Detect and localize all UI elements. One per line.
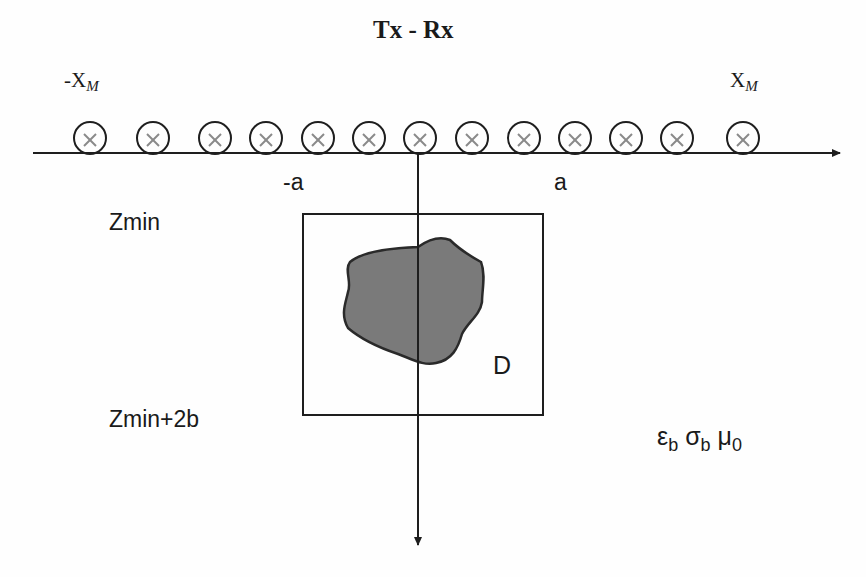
antenna-icon xyxy=(508,122,540,154)
sigma-symbol: σ xyxy=(685,422,700,450)
scatterer-shape xyxy=(344,238,484,363)
pos-xm-base: X xyxy=(730,68,745,92)
mu-sub: 0 xyxy=(732,435,742,455)
antenna-icon xyxy=(302,122,334,154)
neg-a-label: -a xyxy=(283,171,303,194)
epsilon-sub: b xyxy=(668,435,678,455)
antenna-icon xyxy=(137,122,169,154)
mu-symbol: μ xyxy=(718,422,732,450)
antenna-icon xyxy=(559,122,591,154)
medium-parameters-label: εb σb μ0 xyxy=(657,424,742,454)
zmin-2b-label: Zmin+2b xyxy=(109,408,199,431)
antenna-icon xyxy=(199,122,231,154)
antenna-icon xyxy=(610,122,642,154)
neg-xm-sub: M xyxy=(86,78,99,94)
sigma-sub: b xyxy=(701,435,711,455)
epsilon-symbol: ε xyxy=(657,422,668,450)
pos-xm-label: XM xyxy=(730,70,758,94)
antenna-icon xyxy=(456,122,488,154)
domain-d-label: D xyxy=(493,353,511,378)
antenna-array xyxy=(74,122,759,154)
pos-xm-sub: M xyxy=(745,78,758,94)
diagram-title: Tx - Rx xyxy=(373,17,454,42)
zmin-label: Zmin xyxy=(109,211,160,234)
diagram-canvas: Tx - Rx -XM XM -a a Zmin Zmin+2b D εb σb… xyxy=(0,0,866,577)
neg-xm-base: -X xyxy=(64,68,86,92)
antenna-icon xyxy=(727,122,759,154)
pos-a-label: a xyxy=(554,171,567,194)
antenna-icon xyxy=(250,122,282,154)
antenna-icon xyxy=(404,122,436,154)
neg-xm-label: -XM xyxy=(64,70,99,94)
antenna-icon xyxy=(353,122,385,154)
antenna-icon xyxy=(661,122,693,154)
antenna-icon xyxy=(74,122,106,154)
